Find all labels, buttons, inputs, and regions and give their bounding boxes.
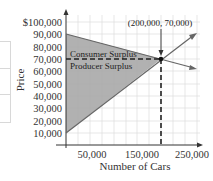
svg-text:150,000: 150,000 [125,149,159,160]
y-axis-label: Price [14,69,26,92]
svg-text:50,000: 50,000 [78,149,107,160]
surplus-chart: (200,000, 70,000) Consumer Surplus Produ… [0,0,213,181]
y-axis-arrow [64,9,69,15]
svg-text:60,000: 60,000 [33,66,62,77]
svg-text:80,000: 80,000 [33,42,62,53]
svg-text:30,000: 30,000 [33,103,62,114]
svg-text:10,000: 10,000 [33,128,62,139]
equilibrium-label: (200,000, 70,000) [128,18,193,28]
svg-text:40,000: 40,000 [33,91,62,102]
y-tick-labels: $100,000 90,000 80,000 70,000 60,000 50,… [23,17,62,139]
svg-text:250,000: 250,000 [175,149,209,160]
annotation-arrow [159,50,164,56]
x-tick-labels: 50,000 150,000 250,000 [78,149,210,160]
consumer-surplus-label: Consumer Surplus [70,49,137,59]
svg-text:20,000: 20,000 [33,116,62,127]
x-axis-arrow [197,143,203,148]
svg-text:90,000: 90,000 [33,29,62,40]
producer-surplus-label: Producer Surplus [70,61,133,71]
equilibrium-point [159,57,164,62]
svg-text:50,000: 50,000 [33,79,62,90]
svg-text:70,000: 70,000 [33,54,62,65]
x-axis-label: Number of Cars [100,160,171,172]
svg-text:$100,000: $100,000 [23,17,62,28]
